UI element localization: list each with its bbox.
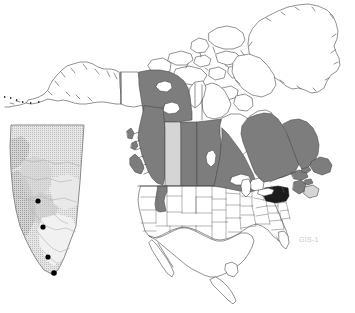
region-alaska [26,62,121,104]
alberta-inset-svg [8,122,90,280]
site-marker-3 [45,254,50,259]
alberta-inset-map [8,122,90,280]
island-axel-heiberg [191,38,209,53]
island-melville [168,51,193,65]
region-nova-scotia [304,185,319,198]
map-figure: GIS-1 [0,0,355,313]
central-america [210,277,236,304]
bc-coastal-islands [131,141,138,150]
watermark-label: GIS-1 [299,234,321,245]
region-british-columbia [138,106,165,185]
island-prince-of-wales [209,67,226,80]
site-marker-4 [51,270,57,276]
island-bathurst [194,55,211,67]
region-alberta [165,122,181,186]
site-marker-2 [40,224,45,229]
region-saskatchewan [181,122,197,186]
florida-peninsula [279,231,289,249]
island-ellesmere [209,26,245,49]
foxe-basin [234,94,253,111]
site-marker-1 [35,198,40,203]
bc-haida-gwaii [127,128,134,139]
yucatan-peninsula [225,262,238,277]
bc-vancouver-island [130,154,144,174]
